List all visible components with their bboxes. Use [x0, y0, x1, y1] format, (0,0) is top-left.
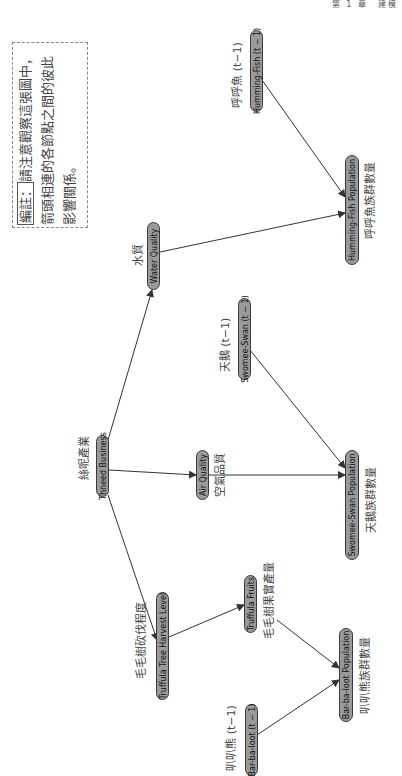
label-humming-fish-prev: 呼呼魚 (t−1) [228, 42, 244, 108]
edge-thneed-to-air [109, 470, 196, 475]
label-truffula-tree-harvest-level: 毛毛樹砍伐程度 [132, 602, 148, 679]
node-truffula-tree-harvest-level: Truffula Tree Harvest Level [156, 592, 169, 700]
label-swomee-swan-prev: 天鵝 (t−1) [216, 318, 232, 373]
node-air-quality: Air Quality [196, 450, 209, 500]
node-barbaloot-population: Bar-ba-loot Population [339, 628, 353, 722]
node-truffula-fruits: Truffula Fruits [244, 575, 257, 633]
edge-water-to-humming [160, 213, 345, 252]
label-swomee-swan-population: 天鵝族群數量 [362, 467, 378, 533]
edge-fruits-to-barbaloot [277, 620, 339, 668]
edge-harvest-to-fruits [169, 605, 244, 637]
node-swomee-swan-population: Swomee-Swan Population [345, 450, 359, 560]
label-thneed-business: 絲呢產業 [75, 436, 91, 480]
edge-hummingprev-to-humming [262, 80, 345, 197]
edge-barbalootprev-to-barbaloot [257, 680, 339, 735]
node-humming-fish-prev: Humming-Fish (t − 1) [250, 30, 263, 112]
label-barbaloot-prev: 叭叭熊 (t−1) [222, 705, 238, 771]
node-water-quality: Water Quality [147, 222, 160, 290]
label-barbaloot-population: 叭叭熊族群數量 [356, 637, 372, 714]
edge-swanprev-to-swan [250, 350, 345, 468]
node-swomee-swan-prev: Swomee-Swan (t − 1) [238, 298, 251, 380]
edge-thneed-to-water [108, 290, 152, 440]
label-water-quality: 水質 [129, 244, 145, 266]
node-thneed-business: Thneed Business [96, 435, 109, 497]
label-air-quality: 空氣品質 [211, 453, 227, 497]
label-truffula-fruits: 毛毛樹果實產量 [260, 562, 276, 639]
node-humming-fish-population: Humming-Fish Population [345, 155, 359, 265]
node-barbaloot-prev: Bar-ba-loot (t − 1) [245, 704, 258, 776]
label-humming-fish-population: 呼呼魚族群數量 [361, 162, 377, 239]
